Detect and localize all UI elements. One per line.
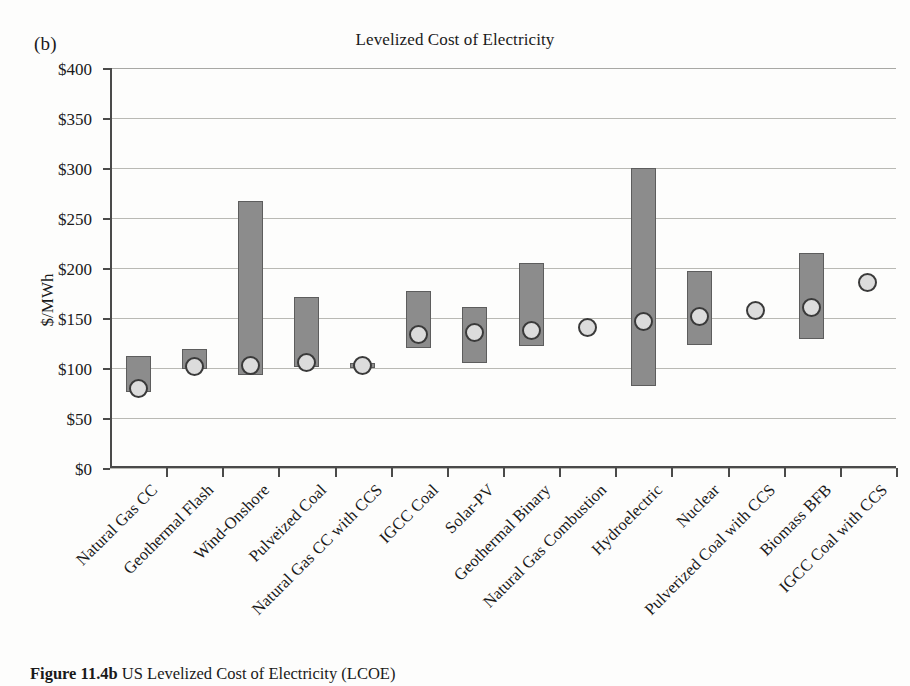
y-tick-label: $400 <box>58 60 92 80</box>
x-tick-label-text: Geothermal Binary <box>450 476 559 585</box>
x-tick-label: Geothermal Binary <box>450 476 559 585</box>
x-tick-label-text: Nuclear <box>672 476 728 532</box>
y-tick-label: $100 <box>58 360 92 380</box>
y-tick-label: $350 <box>58 110 92 130</box>
y-tick-mark: $400 <box>103 68 110 70</box>
y-tick-mark: $150 <box>103 318 110 320</box>
x-tick-mark <box>896 468 898 477</box>
y-axis-title: $/MWh <box>38 240 58 360</box>
y-tick-label: $50 <box>67 410 93 430</box>
figure-caption: Figure 11.4b US Levelized Cost of Electr… <box>30 664 890 686</box>
y-tick-mark: $50 <box>103 418 110 420</box>
caption-text: US Levelized Cost of Electricity (LCOE) <box>118 664 396 683</box>
y-tick-mark: $350 <box>103 118 110 120</box>
y-tick-label: $250 <box>58 210 92 230</box>
y-tick-label: $0 <box>75 460 92 480</box>
x-axis-labels-group: Natural Gas CCGeothermal FlashWind-Onsho… <box>110 476 896 646</box>
chart-title: Levelized Cost of Electricity <box>0 30 910 50</box>
y-tick-mark: $200 <box>103 268 110 270</box>
y-tick-label: $150 <box>58 310 92 330</box>
y-tick-mark: $300 <box>103 168 110 170</box>
plot-area: $0$50$100$150$200$250$300$350$400 <box>110 68 896 468</box>
y-tick-mark: $100 <box>103 368 110 370</box>
plot-frame <box>110 68 896 468</box>
y-tick-mark: $0 <box>103 468 110 470</box>
y-tick-label: $200 <box>58 260 92 280</box>
y-tick-mark: $250 <box>103 218 110 220</box>
caption-label: Figure 11.4b <box>30 664 118 683</box>
x-tick-label: Nuclear <box>672 476 728 532</box>
figure-root: (b) Levelized Cost of Electricity $/MWh … <box>0 0 910 686</box>
y-tick-label: $300 <box>58 160 92 180</box>
